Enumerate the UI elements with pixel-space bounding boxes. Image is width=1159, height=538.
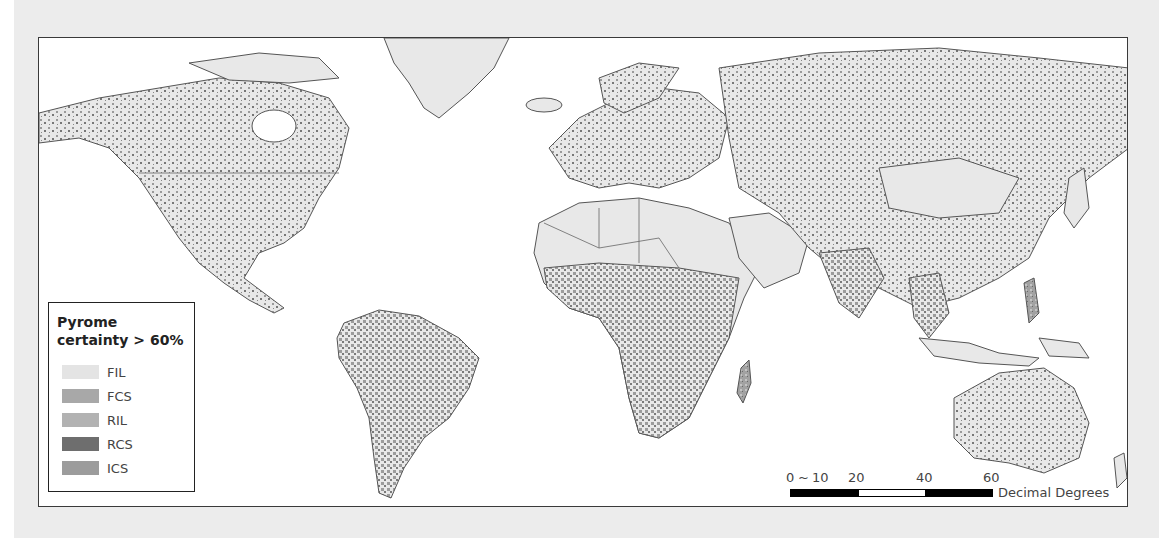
legend-label: RIL — [107, 413, 127, 428]
scale-segment-black — [790, 489, 859, 497]
legend-label: FIL — [107, 365, 126, 380]
scale-segment-white — [858, 489, 926, 497]
legend-item-rcs: RCS — [62, 436, 133, 452]
legend-swatch-fil — [62, 365, 99, 379]
scale-tick: 40 — [916, 470, 933, 485]
legend-label: RCS — [107, 437, 133, 452]
scale-tick: 0 — [786, 470, 794, 485]
legend-swatch-ril — [62, 413, 99, 427]
scale-tick: 60 — [983, 470, 1000, 485]
scale-bar: 0 ~ 10 20 40 60 Decimal Degrees — [786, 470, 1126, 500]
scale-segment-black — [925, 489, 993, 497]
legend-swatch-rcs — [62, 437, 99, 451]
legend-title: Pyrome certainty > 60% — [57, 313, 197, 349]
scale-tick-dash: ~ — [798, 470, 809, 485]
legend-label: FCS — [107, 389, 132, 404]
legend-swatch-ics — [62, 461, 99, 475]
world-map-graphic — [39, 38, 1128, 507]
legend-swatch-fcs — [62, 389, 99, 403]
legend-label: ICS — [107, 461, 128, 476]
legend: Pyrome certainty > 60% FIL FCS RIL RCS I… — [48, 302, 195, 492]
legend-item-ril: RIL — [62, 412, 127, 428]
scale-tick: 10 — [812, 470, 829, 485]
world-map — [38, 37, 1128, 507]
legend-item-ics: ICS — [62, 460, 128, 476]
scale-tick: 20 — [848, 470, 865, 485]
legend-item-fil: FIL — [62, 364, 126, 380]
scale-unit: Decimal Degrees — [998, 485, 1109, 500]
legend-item-fcs: FCS — [62, 388, 132, 404]
